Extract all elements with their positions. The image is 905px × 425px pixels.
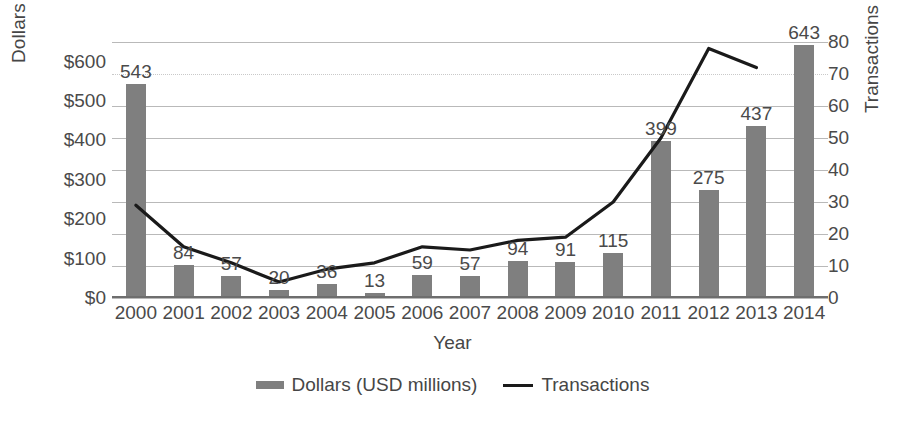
bar-value-label: 399	[631, 119, 691, 139]
x-axis-line	[112, 296, 828, 298]
bar-value-label: 13	[345, 271, 405, 291]
y-axis-left-tick-label: $200	[44, 209, 106, 229]
y-axis-left-ticks: $0$100$200$300$400$500$600	[44, 0, 106, 425]
bar-value-label: 643	[774, 23, 834, 43]
legend-item[interactable]: Dollars (USD millions)	[256, 374, 478, 396]
chart-legend: Dollars (USD millions)Transactions	[0, 374, 905, 396]
y-axis-right-tick-label: 70	[828, 64, 868, 84]
line-swatch-icon	[503, 384, 533, 387]
y-axis-left-tick-label: $300	[44, 170, 106, 190]
x-axis-ticks: 2000200120022003200420052006200720082009…	[0, 302, 905, 332]
bar-value-label: 275	[679, 168, 739, 188]
transactions-line	[136, 48, 757, 282]
y-axis-left-title: Dollars (USD millions)	[2, 0, 36, 89]
legend-item[interactable]: Transactions	[503, 374, 649, 396]
legend-label: Dollars (USD millions)	[292, 374, 478, 396]
dual-axis-chart: Dollars (USD millions) Transactions Year…	[0, 0, 905, 425]
gridline	[112, 298, 828, 299]
bar-swatch-icon	[256, 381, 284, 389]
y-axis-right-tick-label: 40	[828, 160, 868, 180]
x-axis-tick-label: 2014	[774, 302, 834, 324]
y-axis-right-tick-label: 30	[828, 192, 868, 212]
y-axis-left-tick-label: $500	[44, 91, 106, 111]
y-axis-left-tick-label: $400	[44, 130, 106, 150]
y-axis-right-tick-label: 60	[828, 96, 868, 116]
y-axis-left-tick-label: $100	[44, 249, 106, 269]
y-axis-right-tick-label: 10	[828, 256, 868, 276]
y-axis-right-ticks: 01020304050607080	[828, 0, 868, 425]
bar-value-label: 115	[583, 231, 643, 251]
y-axis-right-tick-label: 50	[828, 128, 868, 148]
bar-value-label: 543	[106, 62, 166, 82]
x-axis-title: Year	[0, 332, 905, 354]
y-axis-right-tick-label: 20	[828, 224, 868, 244]
bar-value-label: 437	[726, 104, 786, 124]
y-axis-left-tick-label: $600	[44, 52, 106, 72]
legend-label: Transactions	[541, 374, 649, 396]
